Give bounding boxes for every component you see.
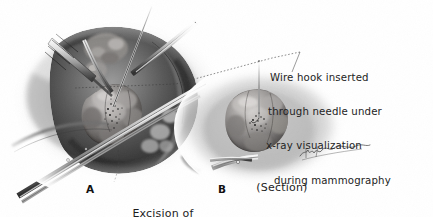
panel-a-caption: Excision of tumor — [108, 182, 218, 217]
panel-b-caption: (Section) — [236, 182, 328, 194]
annotation-line-1: Wire hook inserted — [270, 72, 391, 83]
panel-letter-a: A — [86, 184, 94, 196]
annotation-line-2: through needle under — [268, 106, 391, 117]
panel-letter-b: B — [218, 184, 226, 196]
surgical-illustration-figure: Wire hook inserted through needle under … — [0, 0, 433, 217]
annotation-line-3: x-ray visualization — [266, 140, 391, 151]
panel-a-caption-line-1: Excision of — [108, 208, 218, 217]
